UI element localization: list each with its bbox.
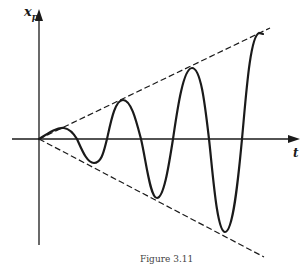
upper-envelope xyxy=(39,28,270,139)
y-axis-label: xp xyxy=(24,4,38,22)
lower-envelope xyxy=(39,139,264,257)
y-axis-label-subscript: p xyxy=(32,12,38,22)
x-axis-arrow-icon xyxy=(288,135,300,143)
figure-caption: Figure 3.11 xyxy=(140,254,193,264)
oscillation-curve xyxy=(39,33,263,232)
x-axis-label: t xyxy=(293,146,299,160)
y-axis-label-text: x xyxy=(24,4,32,19)
